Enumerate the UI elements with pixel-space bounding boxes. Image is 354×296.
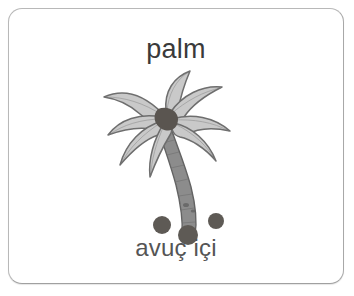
flashcard-screen: palm [0, 0, 354, 296]
coconut-left [153, 216, 171, 234]
palm-tree-illustration [96, 65, 256, 245]
turkish-translation-label: avuç içi [9, 233, 343, 263]
coconut-right [208, 213, 224, 229]
vocabulary-flashcard[interactable]: palm [8, 8, 344, 284]
palm-tree-icon [96, 65, 256, 245]
english-word-label: palm [9, 33, 343, 65]
